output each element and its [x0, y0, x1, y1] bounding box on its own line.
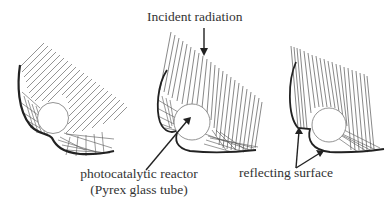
- reactor-tube-middle: [174, 104, 210, 140]
- reactor-label-line1: photocatalytic reactor: [54, 166, 224, 182]
- incident-arrow-head: [200, 48, 208, 56]
- solar-collector-diagram: Incident radiation photocatalytic reacto…: [0, 0, 392, 211]
- incident-rays-left: [20, 43, 127, 133]
- reflector-arrow-2-head: [316, 150, 324, 157]
- reactor-tube-left: [38, 103, 69, 134]
- incident-radiation-label: Incident radiation: [147, 9, 243, 25]
- panel-middle: [146, 28, 262, 170]
- reflector-arrow-1: [296, 131, 299, 168]
- reactor-label: photocatalytic reactor (Pyrex glass tube…: [54, 166, 224, 198]
- panel-right: [290, 46, 384, 168]
- reactor-label-line2: (Pyrex glass tube): [54, 182, 224, 198]
- reactor-tube-right: [312, 108, 346, 142]
- panel-left: [19, 43, 127, 156]
- reflecting-surface-label: reflecting surface: [239, 165, 333, 181]
